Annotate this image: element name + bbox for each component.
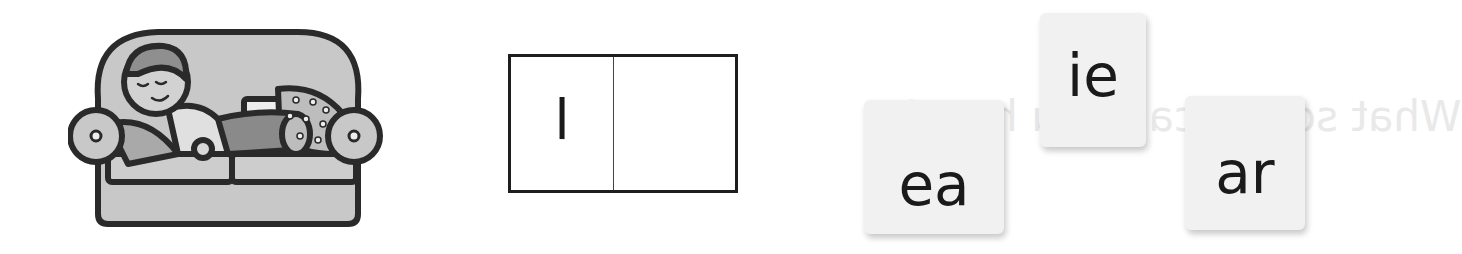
sofa-picture: [68, 24, 384, 232]
tile-label: ea: [898, 156, 969, 214]
sleeping-child-on-sofa-icon: [68, 24, 384, 232]
letter-slot-2[interactable]: [614, 57, 735, 190]
tile-ea[interactable]: ea: [864, 100, 1004, 234]
tile-ar[interactable]: ar: [1185, 96, 1305, 230]
word-box: l: [508, 54, 738, 193]
letter-slot-1[interactable]: l: [511, 57, 614, 190]
tile-label: ie: [1067, 47, 1119, 105]
slot-letter: l: [554, 92, 570, 148]
tile-ie[interactable]: ie: [1040, 13, 1146, 147]
tile-label: ar: [1215, 144, 1274, 202]
